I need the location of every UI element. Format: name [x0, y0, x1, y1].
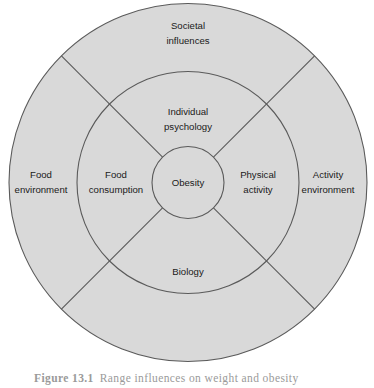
caption-body: Range influences on weight and obesity — [100, 372, 299, 384]
outer-label-top-line2: influences — [166, 35, 209, 46]
outer-label-left-line1: Food — [30, 169, 52, 180]
inner-label-top-line2: psychology — [164, 121, 212, 132]
obesity-influences-diagram: Obesity Societal influences Food environ… — [0, 0, 374, 388]
inner-label-right-line2: activity — [243, 184, 273, 195]
inner-label-bottom-line1: Biology — [172, 266, 204, 277]
inner-label-left-line1: Food — [105, 169, 127, 180]
core-label-obesity: Obesity — [172, 177, 205, 188]
caption-line: Figure 13.1Range influences on weight an… — [0, 372, 374, 384]
inner-label-top-line1: Individual — [168, 106, 209, 117]
inner-label-right-line1: Physical — [240, 169, 276, 180]
figure-container: Obesity Societal influences Food environ… — [0, 0, 374, 388]
outer-label-right-line1: Activity — [313, 169, 344, 180]
caption-number: Figure 13.1 — [34, 372, 94, 384]
inner-label-left-line2: consumption — [89, 184, 143, 195]
figure-caption: Figure 13.1Range influences on weight an… — [0, 372, 374, 388]
outer-label-left-line2: environment — [15, 184, 68, 195]
outer-label-top-line1: Societal — [171, 20, 205, 31]
outer-label-right-line2: environment — [302, 184, 355, 195]
